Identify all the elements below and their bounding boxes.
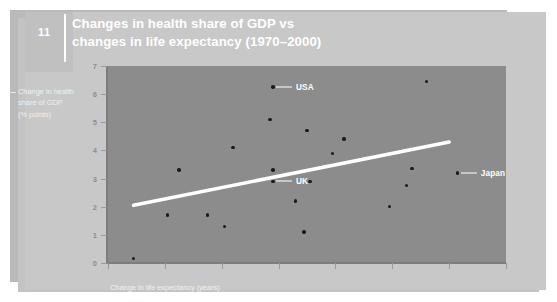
annotation-label: UK: [296, 177, 308, 186]
annotation-leader-line: [276, 181, 292, 182]
data-point-uk: [271, 180, 274, 183]
trend-line: [108, 66, 506, 263]
slide-page: 11 Changes in health share of GDP vs cha…: [0, 0, 557, 302]
data-point-japan: [456, 171, 459, 174]
annotation-leader-line: [461, 172, 477, 173]
y-tick-label: 3: [93, 174, 97, 183]
y-tick-label: 4: [93, 146, 97, 155]
annotation-label: USA: [296, 83, 314, 92]
data-point: [302, 230, 305, 233]
y-tick: 5: [101, 122, 107, 123]
slide-number: 11: [38, 26, 51, 38]
annotation-leader-line: [276, 87, 292, 88]
x-tick: [449, 263, 450, 269]
data-point-usa: [271, 85, 274, 88]
y-axis-label-leader: [9, 92, 16, 93]
data-point: [308, 180, 311, 183]
x-tick: [165, 263, 166, 269]
y-tick: 6: [101, 94, 107, 95]
page-title: Changes in health share of GDP vs change…: [72, 15, 372, 51]
y-axis-label-line-1: Change in health: [18, 86, 94, 97]
y-tick-label: 6: [93, 90, 97, 99]
y-tick: 0: [101, 263, 107, 264]
title-divider: [64, 14, 66, 62]
annotation-label: Japan: [481, 168, 506, 177]
y-tick: 2: [101, 207, 107, 208]
data-point: [206, 213, 209, 216]
annotation-uk: UK: [276, 177, 308, 186]
y-tick-label: 1: [93, 230, 97, 239]
y-axis-label-line-2: share of GDP: [18, 97, 94, 108]
data-point: [271, 168, 274, 171]
y-axis-label: Change in health share of GDP (% points): [18, 86, 94, 120]
x-tick: [108, 263, 109, 269]
x-tick: [279, 263, 280, 269]
annotation-usa: USA: [276, 83, 314, 92]
data-point: [268, 118, 271, 121]
annotation-japan: Japan: [461, 168, 506, 177]
y-tick: 1: [101, 235, 107, 236]
x-tick: [222, 263, 223, 269]
title-line-2: changes in life expectancy (1970–2000): [72, 33, 372, 51]
y-tick: 3: [101, 179, 107, 180]
data-point: [177, 168, 180, 171]
y-tick: 7: [101, 66, 107, 67]
y-tick-label: 7: [93, 62, 97, 71]
x-tick: [335, 263, 336, 269]
y-tick: 4: [101, 150, 107, 151]
x-axis-label: Change in life expectancy (years): [110, 283, 220, 292]
x-tick: [506, 263, 507, 269]
data-point: [342, 137, 345, 140]
scatter-chart: 01234567 345678910 USAUKJapan: [108, 66, 506, 263]
y-axis-label-line-3: (% points): [18, 109, 94, 120]
title-line-1: Changes in health share of GDP vs: [72, 15, 372, 33]
y-tick-label: 2: [93, 202, 97, 211]
x-tick: [392, 263, 393, 269]
y-tick-label: 5: [93, 118, 97, 127]
y-tick-label: 0: [93, 259, 97, 268]
